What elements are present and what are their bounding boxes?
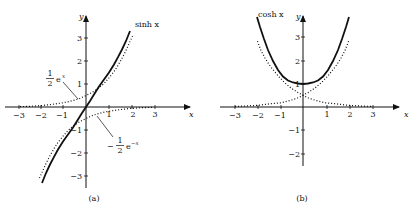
svg-text:x: x bbox=[62, 73, 66, 79]
half-exp-pos-label: 1 2 e x bbox=[46, 69, 78, 99]
x-tick-label: −3 bbox=[13, 111, 25, 120]
x-tick-label: −1 bbox=[274, 111, 286, 120]
y-tick-label: 3 bbox=[295, 33, 300, 42]
y-tick-label: −2 bbox=[70, 149, 82, 158]
y-tick-label: −1 bbox=[288, 126, 300, 135]
y-tick-label: 3 bbox=[77, 34, 82, 43]
x-tick-label: 1 bbox=[324, 110, 329, 119]
y-tick-label: 2 bbox=[295, 57, 300, 66]
svg-text:e: e bbox=[56, 75, 61, 84]
leader-line bbox=[97, 116, 113, 137]
x-tick-label: −2 bbox=[35, 111, 47, 120]
half-exp-pos-curve-b bbox=[235, 40, 349, 106]
x-tick-label: −3 bbox=[229, 111, 241, 120]
y-axis-label-a: y bbox=[78, 12, 84, 21]
sinh-label-text: sinh x bbox=[135, 20, 160, 29]
caption-b: (b) bbox=[296, 194, 307, 203]
x-axis-label-a: x bbox=[189, 110, 194, 119]
x-tick-label: −1 bbox=[56, 111, 68, 120]
sinh-label: sinh x bbox=[135, 20, 160, 29]
y-tick-label: 2 bbox=[77, 57, 82, 66]
leader-line bbox=[63, 82, 78, 99]
svg-text:−x: −x bbox=[131, 140, 140, 146]
x-tick-label: 3 bbox=[152, 110, 157, 119]
y-tick-label: −3 bbox=[70, 172, 82, 181]
caption-a: (a) bbox=[88, 194, 99, 203]
x-tick-label: 3 bbox=[370, 110, 375, 119]
panel-b: −3 −2 −1 1 2 3 3 2 1 −1 −2 x y cosh x (b… bbox=[220, 10, 409, 203]
cosh-label: cosh x bbox=[258, 10, 284, 19]
x-tick-label: 2 bbox=[347, 110, 352, 119]
figure-canvas: −3 −2 −1 1 2 3 3 2 1 −1 −2 −3 x y sinh x… bbox=[0, 0, 415, 212]
x-tick-label: −2 bbox=[252, 111, 264, 120]
y-axis-label-b: y bbox=[295, 12, 301, 21]
svg-text:−: − bbox=[107, 142, 114, 151]
svg-text:2: 2 bbox=[117, 146, 122, 155]
svg-text:1: 1 bbox=[117, 136, 122, 145]
y-tick-label: −2 bbox=[288, 150, 300, 159]
x-tick-label: 2 bbox=[130, 110, 135, 119]
y-tick-label: 1 bbox=[77, 80, 82, 89]
x-tick-label: 1 bbox=[106, 110, 111, 119]
svg-text:1: 1 bbox=[47, 69, 52, 78]
x-axis-label-b: x bbox=[404, 110, 409, 119]
panel-a: −3 −2 −1 1 2 3 3 2 1 −1 −2 −3 x y sinh x… bbox=[5, 12, 194, 203]
svg-text:2: 2 bbox=[47, 79, 52, 88]
half-exp-pos-curve-a bbox=[20, 35, 133, 107]
half-exp-neg-curve-b bbox=[257, 40, 371, 106]
neg-half-exp-neg-label: − 1 2 e −x bbox=[97, 116, 140, 155]
